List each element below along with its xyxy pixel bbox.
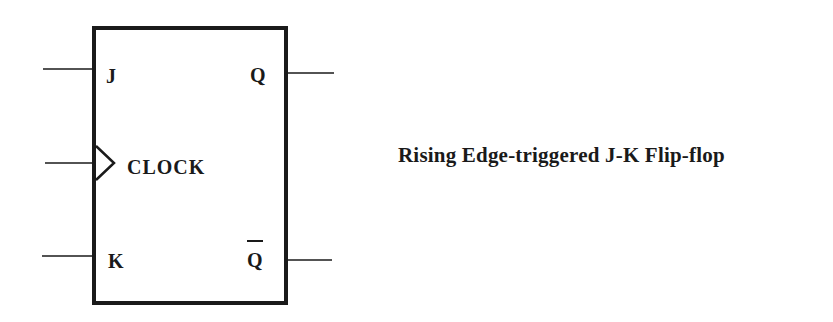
clock-edge-triangle-icon	[96, 146, 114, 180]
clock-label: CLOCK	[127, 156, 205, 178]
j-label: J	[106, 65, 116, 87]
k-label: K	[108, 250, 124, 272]
q-bar-label: Q	[247, 249, 263, 271]
q-label: Q	[250, 64, 266, 86]
diagram-caption: Rising Edge-triggered J-K Flip-flop	[398, 143, 725, 168]
